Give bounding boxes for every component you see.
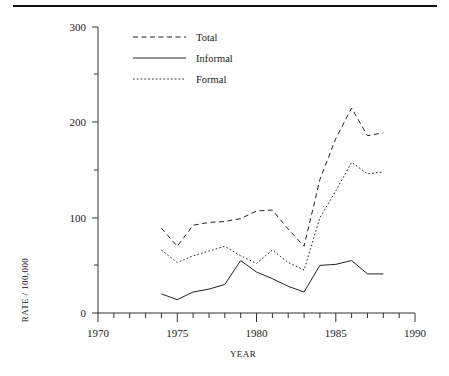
- y-axis-title: RATE / 100,000: [20, 258, 30, 322]
- x-tick-label-1985: 1985: [325, 327, 348, 339]
- chart-plot-area: 300 200 100 0 1970 1975 1980 1985 1990 R…: [0, 0, 449, 376]
- series-line-informal: [161, 261, 383, 300]
- chart-figure: 300 200 100 0 1970 1975 1980 1985 1990 R…: [0, 0, 449, 376]
- y-axis-minor-ticks: [94, 74, 98, 265]
- x-axis-title: YEAR: [230, 349, 256, 359]
- y-tick-label-0: 0: [81, 307, 87, 319]
- series-line-total: [161, 108, 383, 246]
- y-tick-label-300: 300: [70, 21, 87, 33]
- series-line-formal: [161, 162, 383, 270]
- x-tick-label-1975: 1975: [166, 327, 189, 339]
- legend-label-total: Total: [196, 32, 218, 43]
- legend: Total Informal Formal: [133, 32, 233, 85]
- x-tick-label-1970: 1970: [87, 327, 110, 339]
- x-tick-label-1990: 1990: [404, 327, 427, 339]
- legend-label-informal: Informal: [196, 53, 233, 64]
- legend-label-formal: Formal: [196, 74, 226, 85]
- y-tick-label-100: 100: [70, 212, 87, 224]
- x-axis-ticks: [98, 313, 415, 322]
- y-tick-label-200: 200: [70, 116, 87, 128]
- x-tick-label-1980: 1980: [246, 327, 269, 339]
